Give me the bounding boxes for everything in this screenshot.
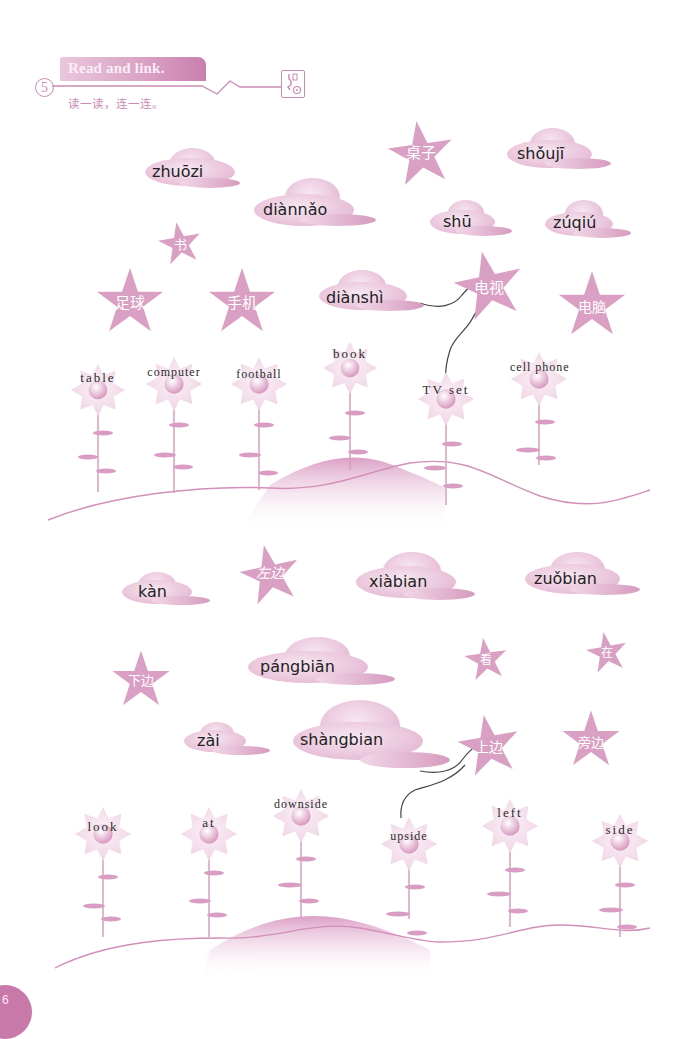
flower-tv-set[interactable]: TV set	[417, 370, 475, 510]
cloud-shangbian[interactable]: shàngbian	[290, 700, 450, 775]
cloud-zuqiu[interactable]: zúqiú	[543, 200, 633, 242]
flower-book[interactable]: book	[322, 340, 378, 475]
cloud-xiabian[interactable]: xiàbian	[353, 552, 475, 607]
star-diannao[interactable]: 电脑	[554, 268, 630, 340]
cloud-zuobian[interactable]: zuǒbian	[522, 552, 640, 604]
flower-downside[interactable]: downside	[272, 787, 330, 927]
page-number: 6	[2, 993, 9, 1007]
star-zhuozi[interactable]: 桌子	[386, 118, 456, 188]
star-shangbian[interactable]: 上边	[456, 712, 522, 778]
flower-side[interactable]: side	[591, 812, 649, 952]
cloud-shouji[interactable]: shǒujī	[505, 128, 610, 178]
cloud-zai[interactable]: zài	[182, 722, 270, 758]
star-zai[interactable]: 在	[585, 630, 629, 674]
cloud-zhuozi[interactable]: zhuōzi	[140, 148, 240, 193]
star-zuqiu[interactable]: 足球	[92, 265, 168, 337]
cloud-dianshi[interactable]: diànshì	[316, 270, 426, 318]
cloud-pangbian[interactable]: pángbiān	[245, 637, 395, 692]
flower-cell-phone[interactable]: cell phone	[510, 350, 568, 490]
star-shouji[interactable]: 手机	[205, 265, 279, 337]
flower-football[interactable]: football	[230, 355, 288, 495]
star-xiabian[interactable]: 下边	[110, 648, 172, 710]
cloud-diannao[interactable]: diànnǎo	[250, 178, 375, 233]
flower-left[interactable]: left	[481, 797, 539, 937]
star-kan[interactable]: 看	[463, 636, 509, 682]
flower-computer[interactable]: computer	[145, 355, 203, 495]
flower-at[interactable]: at	[180, 805, 238, 945]
cloud-kan[interactable]: kàn	[120, 572, 210, 610]
star-zuobian[interactable]: 左边	[238, 542, 302, 606]
star-shu[interactable]: 书	[157, 220, 203, 266]
star-pangbian[interactable]: 旁边	[560, 708, 622, 770]
flower-table[interactable]: table	[70, 362, 126, 497]
flower-look[interactable]: look	[74, 805, 132, 945]
star-dianshi[interactable]: 电视	[452, 248, 526, 322]
flower-upside[interactable]: upside	[380, 815, 438, 955]
cloud-shu[interactable]: shū	[428, 200, 513, 240]
